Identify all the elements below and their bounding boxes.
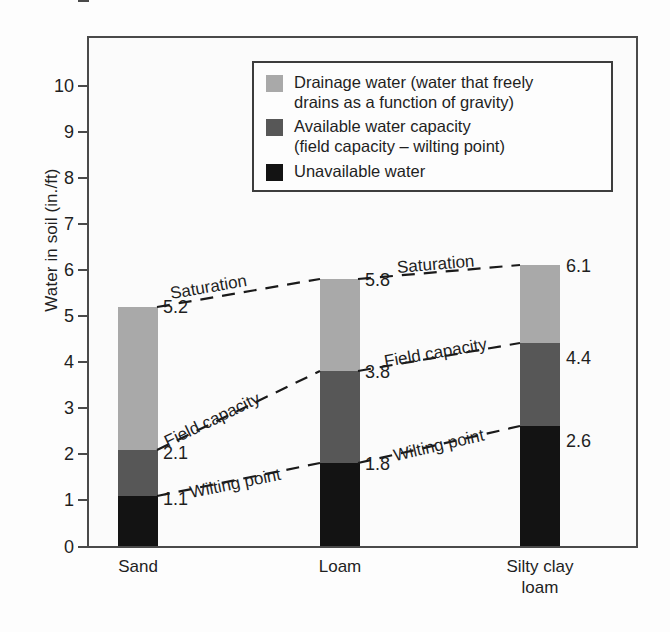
legend-item-unavailable-water[interactable]: Unavailable water — [266, 161, 601, 181]
y-axis-label-5: 5 — [34, 306, 74, 327]
category-label-silty-clay-loam-line2: loam — [465, 577, 615, 598]
bar-value-silty-clay-loam-unavailable: 2.6 — [566, 431, 591, 452]
legend-item-available-water-capacity[interactable]: Available water capacity (field capacity… — [266, 116, 601, 156]
bar-sand-segment-drainage — [118, 307, 158, 450]
legend-label-drainage-water-line1: Drainage water (water that freely — [294, 72, 533, 92]
y-axis-label-0: 0 — [34, 537, 74, 558]
bar-silty-clay-loam-segment-drainage — [520, 265, 560, 343]
bar-silty-clay-loam-segment-unavailable — [520, 426, 560, 546]
bar-silty-clay-loam[interactable] — [520, 265, 560, 546]
bar-sand-segment-unavailable — [118, 496, 158, 546]
figure-container: Water in soil (in./ft) 10 9 8 7 6 5 4 3 … — [0, 0, 670, 632]
legend-swatch-drainage-water — [266, 75, 283, 92]
bar-value-sand-unavailable: 1.1 — [163, 489, 188, 510]
legend-item-drainage-water[interactable]: Drainage water (water that freely drains… — [266, 72, 601, 112]
y-axis-label-7: 7 — [34, 214, 74, 235]
bar-loam-segment-available — [320, 371, 360, 463]
category-label-silty-clay-loam: Silty clay loam — [465, 556, 615, 599]
bar-silty-clay-loam-segment-available — [520, 343, 560, 426]
legend-label-available-water-capacity-line2: (field capacity – wilting point) — [294, 136, 505, 156]
y-axis-label-9: 9 — [34, 122, 74, 143]
legend-label-available-water-capacity-line1: Available water capacity — [294, 116, 505, 136]
legend-swatch-unavailable-water — [266, 164, 283, 181]
y-axis-label-1: 1 — [34, 490, 74, 511]
bar-value-silty-clay-loam-saturation: 6.1 — [566, 256, 591, 277]
y-axis-label-2: 2 — [34, 444, 74, 465]
caption-sliver — [14, 622, 654, 632]
bar-loam-segment-unavailable — [320, 463, 360, 546]
legend-label-unavailable-water-line1: Unavailable water — [294, 161, 425, 181]
category-label-loam: Loam — [265, 556, 415, 577]
y-axis-label-3: 3 — [34, 398, 74, 419]
y-axis-label-8: 8 — [34, 168, 74, 189]
legend: Drainage water (water that freely drains… — [252, 61, 613, 192]
y-axis-label-10: 10 — [34, 76, 74, 97]
y-axis-title: Water in soil (in./ft) — [42, 110, 62, 370]
category-label-sand: Sand — [63, 556, 213, 577]
y-axis-label-4: 4 — [34, 352, 74, 373]
bar-value-loam-saturation: 5.8 — [365, 270, 390, 291]
category-label-silty-clay-loam-line1: Silty clay — [465, 556, 615, 577]
bar-sand-segment-available — [118, 450, 158, 496]
legend-swatch-available-water-capacity — [266, 119, 283, 136]
legend-label-drainage-water-line2: drains as a function of gravity) — [294, 92, 533, 112]
bar-loam-segment-drainage — [320, 279, 360, 371]
legend-label-available-water-capacity: Available water capacity (field capacity… — [294, 116, 505, 156]
bar-value-loam-unavailable: 1.8 — [365, 454, 390, 475]
legend-label-drainage-water: Drainage water (water that freely drains… — [294, 72, 533, 112]
category-label-sand-line1: Sand — [63, 556, 213, 577]
legend-label-unavailable-water: Unavailable water — [294, 161, 425, 181]
bar-loam[interactable] — [320, 279, 360, 546]
bar-sand[interactable] — [118, 307, 158, 546]
bar-value-silty-clay-loam-field-capacity: 4.4 — [566, 348, 591, 369]
y-axis-label-6: 6 — [34, 260, 74, 281]
category-label-loam-line1: Loam — [265, 556, 415, 577]
